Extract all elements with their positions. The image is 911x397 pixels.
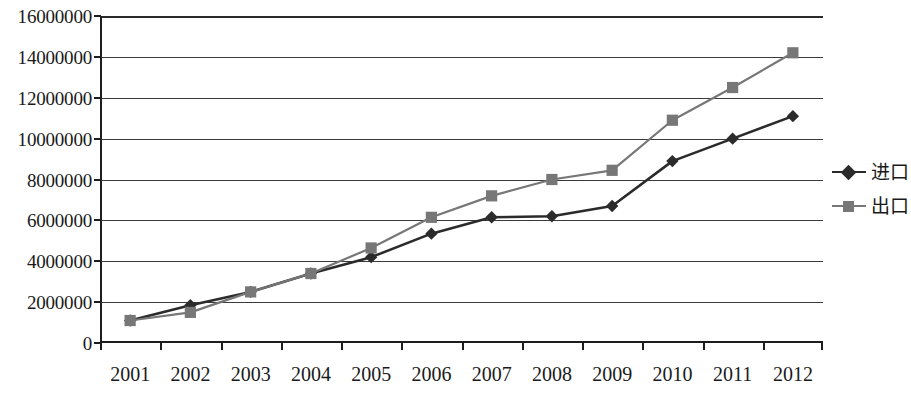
x-axis-tick xyxy=(341,342,343,350)
y-axis-tick-label: 12000000 xyxy=(0,88,92,107)
x-axis-tick-label: 2010 xyxy=(652,362,692,386)
data-point-diamond xyxy=(787,110,799,122)
y-axis-tick-label: 2000000 xyxy=(0,293,92,312)
y-axis-tick-label: 6000000 xyxy=(0,211,92,230)
plot-area xyxy=(100,16,823,343)
series-exports xyxy=(125,47,799,326)
data-point-square xyxy=(607,165,618,176)
x-axis-tick-label: 2003 xyxy=(231,362,271,386)
x-axis-tick-label: 2008 xyxy=(532,362,572,386)
x-axis-tick-label: 2001 xyxy=(110,362,150,386)
data-point-square xyxy=(125,315,136,326)
y-axis-tick-label: 0 xyxy=(0,334,92,353)
series-line xyxy=(130,53,793,321)
chart-legend: 进口出口 xyxy=(832,155,911,223)
x-axis-tick xyxy=(703,342,705,350)
data-point-diamond xyxy=(546,210,558,222)
x-axis-labels: 2001200220032004200520062007200820092010… xyxy=(100,362,823,392)
x-axis-tick xyxy=(642,342,644,350)
data-point-diamond xyxy=(425,227,437,239)
y-axis-tick-label: 10000000 xyxy=(0,129,92,148)
x-axis-tick xyxy=(821,342,823,350)
x-axis-tick-label: 2002 xyxy=(170,362,210,386)
data-point-square xyxy=(546,174,557,185)
y-axis-tick-label: 14000000 xyxy=(0,47,92,66)
x-axis-tick xyxy=(160,342,162,350)
x-axis-tick xyxy=(401,342,403,350)
x-axis-tick xyxy=(281,342,283,350)
data-point-square xyxy=(727,82,738,93)
legend-diamond-icon xyxy=(832,163,866,181)
series-layer xyxy=(100,16,823,343)
x-axis-tick-label: 2004 xyxy=(291,362,331,386)
x-axis-tick xyxy=(582,342,584,350)
legend-label: 出口 xyxy=(871,196,909,216)
data-point-square xyxy=(787,47,798,58)
data-point-square xyxy=(245,286,256,297)
legend-item: 进口 xyxy=(832,155,911,189)
x-axis-tick xyxy=(522,342,524,350)
x-axis-tick-label: 2006 xyxy=(411,362,451,386)
y-axis-tick-label: 8000000 xyxy=(0,170,92,189)
y-axis-tick-label: 16000000 xyxy=(0,7,92,26)
data-point-square xyxy=(366,242,377,253)
x-axis-tick-label: 2009 xyxy=(592,362,632,386)
series-line xyxy=(130,116,793,320)
legend-item: 出口 xyxy=(832,189,911,223)
x-axis-tick xyxy=(462,342,464,350)
line-chart: 0200000040000006000000800000010000000120… xyxy=(0,0,911,397)
data-point-square xyxy=(667,115,678,126)
data-point-square xyxy=(305,268,316,279)
x-axis-tick-label: 2005 xyxy=(351,362,391,386)
data-point-diamond xyxy=(726,132,738,144)
y-axis-labels: 0200000040000006000000800000010000000120… xyxy=(0,0,92,397)
data-point-diamond xyxy=(485,211,497,223)
data-point-square xyxy=(185,307,196,318)
legend-square-icon xyxy=(832,197,866,215)
data-point-square xyxy=(486,190,497,201)
x-axis-tick xyxy=(221,342,223,350)
series-imports xyxy=(124,110,799,327)
y-axis-tick-label: 4000000 xyxy=(0,252,92,271)
x-axis-tick-label: 2012 xyxy=(773,362,813,386)
x-axis-tick xyxy=(763,342,765,350)
legend-label: 进口 xyxy=(871,162,909,182)
data-point-square xyxy=(426,212,437,223)
x-axis-tick xyxy=(100,342,102,350)
x-axis-tick-label: 2007 xyxy=(472,362,512,386)
x-axis-tick-label: 2011 xyxy=(713,362,752,386)
